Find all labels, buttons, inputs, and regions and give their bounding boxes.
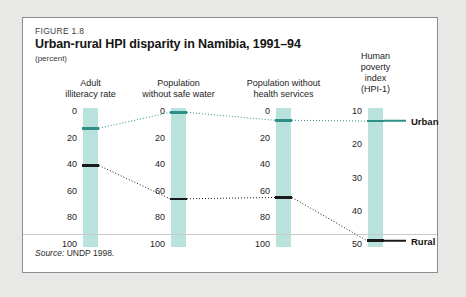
source-note: Source: UNDP 1998. — [35, 248, 114, 258]
column-header-line: health services — [220, 89, 348, 100]
axis-tick-label: 0 — [135, 106, 165, 116]
axis-tick-label: 60 — [135, 186, 165, 196]
axis-tick-label: 10 — [332, 106, 362, 116]
column-header-line: Population without — [220, 78, 348, 89]
axis-tick-label: 20 — [240, 133, 270, 143]
rural-marker-3 — [275, 196, 292, 199]
column-header-line: Adult — [45, 78, 137, 89]
scale-bar-4 — [368, 108, 383, 247]
rural-marker-1 — [82, 164, 99, 167]
axis-tick-label: 0 — [47, 106, 77, 116]
legend-rule-urban — [384, 120, 406, 123]
column-header-line: Population — [123, 78, 235, 89]
axis-tick-label: 20 — [135, 133, 165, 143]
axis-tick-label: 40 — [332, 206, 362, 216]
axis-tick-label: 40 — [240, 159, 270, 169]
scale-bar-2 — [171, 108, 186, 247]
rural-marker-4 — [367, 239, 384, 242]
axis-tick-label: 80 — [47, 212, 77, 222]
axis-tick-label: 100 — [135, 239, 165, 249]
rural-marker-2 — [170, 198, 187, 201]
column-header-3: Population withouthealth services — [220, 78, 348, 100]
figure-container: FIGURE 1.8 Urban-rural HPI disparity in … — [22, 17, 438, 273]
column-header-line: poverty — [341, 62, 411, 73]
axis-tick-label: 50 — [332, 239, 362, 249]
source-divider — [23, 234, 437, 235]
column-header-line: without safe water — [123, 89, 235, 100]
axis-tick-label: 30 — [332, 173, 362, 183]
column-header-line: (HPI-1) — [341, 84, 411, 95]
connector-segment-urban — [292, 120, 367, 121]
axis-tick-label: 60 — [47, 186, 77, 196]
source-label: Source: — [35, 248, 64, 258]
urban-marker-1 — [82, 127, 99, 130]
column-header-2: Populationwithout safe water — [123, 78, 235, 100]
figure-number: FIGURE 1.8 — [35, 26, 84, 36]
axis-tick-label: 60 — [240, 186, 270, 196]
connector-lines — [23, 18, 439, 274]
connector-segment-urban — [187, 112, 275, 120]
chart-plot-area: Adultilliteracy rate020406080100Populati… — [23, 18, 439, 274]
urban-marker-4 — [367, 120, 384, 123]
legend-label-rural: Rural — [411, 235, 435, 246]
urban-marker-2 — [170, 111, 187, 114]
axis-tick-label: 20 — [332, 139, 362, 149]
axis-tick-label: 100 — [240, 239, 270, 249]
axis-tick-label: 20 — [47, 133, 77, 143]
source-value: UNDP 1998. — [64, 248, 114, 258]
urban-marker-3 — [275, 119, 292, 122]
column-header-line: illiteracy rate — [45, 89, 137, 100]
figure-units-label: (percent) — [35, 54, 67, 63]
connector-segment-urban — [99, 112, 170, 128]
axis-tick-label: 80 — [135, 212, 165, 222]
scale-bar-1 — [83, 108, 98, 247]
column-header-line: index — [341, 73, 411, 84]
connector-segment-rural — [187, 197, 275, 198]
legend-rule-rural — [384, 239, 406, 242]
axis-tick-label: 40 — [47, 159, 77, 169]
legend-label-urban: Urban — [411, 115, 438, 126]
connector-segment-rural — [99, 166, 170, 199]
axis-tick-label: 0 — [240, 106, 270, 116]
figure-title: Urban-rural HPI disparity in Namibia, 19… — [35, 37, 301, 51]
axis-tick-label: 80 — [240, 212, 270, 222]
column-header-4: Humanpovertyindex(HPI-1) — [341, 51, 411, 95]
column-header-1: Adultilliteracy rate — [45, 78, 137, 100]
scale-bar-3 — [276, 108, 291, 247]
column-header-line: Human — [341, 51, 411, 62]
axis-tick-label: 40 — [135, 159, 165, 169]
